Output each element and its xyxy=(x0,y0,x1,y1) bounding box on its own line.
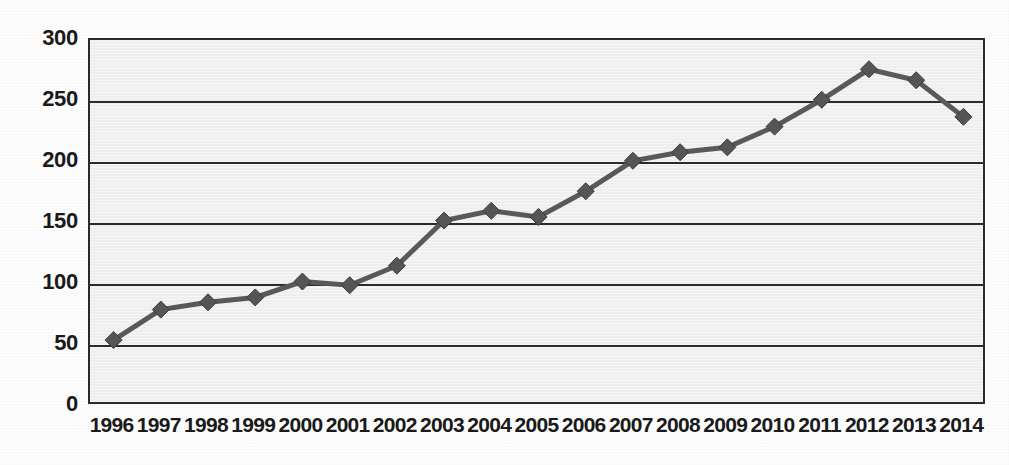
x-tick-label: 2009 xyxy=(702,414,749,435)
x-tick-label: 2013 xyxy=(890,414,937,435)
series-marker-group xyxy=(105,61,972,349)
x-tick-label: 2000 xyxy=(277,414,324,435)
plot-area xyxy=(88,38,985,404)
data-point-marker xyxy=(200,294,217,311)
data-point-marker xyxy=(672,144,689,161)
series-line-path xyxy=(114,69,964,340)
y-tick-label: 150 xyxy=(8,210,78,232)
x-tick-label: 1999 xyxy=(230,414,277,435)
y-tick-label: 300 xyxy=(8,27,78,49)
x-tick-label: 2005 xyxy=(513,414,560,435)
x-tick-label: 2014 xyxy=(938,414,985,435)
x-tick-label: 2006 xyxy=(560,414,607,435)
data-point-marker xyxy=(294,273,311,290)
x-tick-label: 2007 xyxy=(607,414,654,435)
y-tick-label: 50 xyxy=(8,332,78,354)
x-tick-label: 2004 xyxy=(466,414,513,435)
y-tick-label: 0 xyxy=(8,393,78,415)
x-tick-label: 2012 xyxy=(843,414,890,435)
line-chart-figure: 050100150200250300 199619971998199920002… xyxy=(0,0,1009,465)
x-tick-label: 2008 xyxy=(654,414,701,435)
data-point-marker xyxy=(341,277,358,294)
x-axis-tick-labels: 1996199719981999200020012002200320042005… xyxy=(88,414,985,448)
data-point-marker xyxy=(483,202,500,219)
x-tick-label: 2003 xyxy=(418,414,465,435)
x-tick-label: 1996 xyxy=(88,414,135,435)
y-axis-tick-labels: 050100150200250300 xyxy=(0,0,78,465)
x-tick-label: 1998 xyxy=(182,414,229,435)
y-tick-label: 200 xyxy=(8,149,78,171)
data-series-group xyxy=(90,40,987,406)
x-tick-label: 2011 xyxy=(796,414,843,435)
x-tick-label: 1997 xyxy=(135,414,182,435)
x-tick-label: 2002 xyxy=(371,414,418,435)
y-tick-label: 100 xyxy=(8,271,78,293)
x-tick-label: 2001 xyxy=(324,414,371,435)
y-tick-label: 250 xyxy=(8,88,78,110)
data-point-marker xyxy=(247,289,264,306)
data-point-marker xyxy=(719,139,736,156)
x-tick-label: 2010 xyxy=(749,414,796,435)
